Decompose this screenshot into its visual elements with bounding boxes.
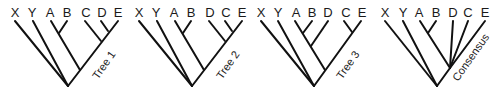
leaf-label: B	[308, 5, 317, 20]
leaf-label: E	[481, 5, 490, 20]
tree-consensus: X Y A B D C E Consensus	[381, 5, 492, 86]
branch	[33, 21, 68, 86]
leaf-label: A	[415, 5, 424, 20]
leaf-label: C	[221, 5, 230, 20]
cladogram-figure: X Y A B C D E Tree 1 X Y A B D C E Tree …	[0, 0, 501, 94]
branch	[85, 21, 101, 41]
leaf-label: B	[187, 5, 196, 20]
leaf-label: A	[292, 5, 301, 20]
leaf-label: E	[238, 5, 247, 20]
leaf-label: A	[46, 5, 55, 20]
leaf-label: X	[11, 5, 20, 20]
leaf-label: B	[432, 5, 441, 20]
leaf-label: X	[381, 5, 390, 20]
branch	[278, 21, 314, 86]
leaf-label: E	[358, 5, 367, 20]
branch	[157, 21, 192, 86]
leaf-label: X	[257, 5, 266, 20]
branch	[403, 21, 437, 86]
leaf-label: E	[114, 5, 123, 20]
leaf-label: D	[97, 5, 106, 20]
branch	[101, 21, 108, 31]
tree-1: X Y A B C D E Tree 1	[11, 5, 123, 86]
leaf-label: C	[341, 5, 350, 20]
leaf-label: B	[63, 5, 72, 20]
leaf-label: Y	[152, 5, 161, 20]
leaf-label: C	[463, 5, 472, 20]
branch	[428, 21, 436, 33]
branch	[437, 68, 450, 86]
branch	[59, 21, 67, 33]
branch	[261, 21, 314, 86]
leaf-label: Y	[274, 5, 283, 20]
leaf-label: X	[135, 5, 144, 20]
leaf-label: D	[448, 5, 457, 20]
leaf-label: D	[205, 5, 214, 20]
leaf-label: Y	[399, 5, 408, 20]
branch	[295, 21, 325, 70]
branch	[209, 21, 225, 41]
tree-2: X Y A B D C E Tree 2	[135, 5, 247, 86]
branch	[344, 21, 352, 32]
leaf-label: C	[81, 5, 90, 20]
leaf-label: D	[323, 5, 332, 20]
branch	[183, 21, 191, 33]
branch	[225, 21, 232, 31]
leaf-label: Y	[28, 5, 37, 20]
branch	[311, 21, 328, 46]
leaf-label: A	[170, 5, 179, 20]
branch	[303, 21, 312, 33]
tree-3: X Y A B D C E Tree 3	[257, 5, 367, 86]
